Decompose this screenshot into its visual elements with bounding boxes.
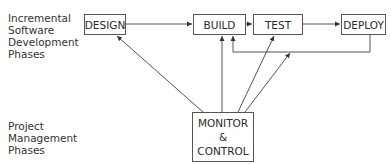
label-line: Development: [8, 36, 79, 48]
build-label: BUILD: [204, 19, 236, 31]
design-label: DESIGN: [85, 19, 125, 31]
label-line: Phases: [8, 48, 79, 60]
label-line: Project: [8, 120, 77, 132]
arrow-monitor-to-test: [238, 36, 274, 112]
deploy-label: DEPLOY: [343, 19, 384, 31]
test-label: TEST: [265, 19, 291, 31]
label-line: Phases: [8, 144, 77, 156]
arrow-deploy-feedback-to-build: [233, 34, 370, 52]
label-line: Management: [8, 132, 77, 144]
monitor-label: MONITOR: [198, 116, 248, 130]
build-box: BUILD: [193, 14, 246, 35]
ampersand-label: &: [219, 130, 227, 144]
project-phases-label: Project Management Phases: [8, 120, 77, 156]
design-box: DESIGN: [84, 14, 126, 35]
label-line: Software: [8, 24, 79, 36]
arrow-monitor-to-design: [117, 36, 203, 112]
software-phases-label: Incremental Software Development Phases: [8, 12, 79, 60]
deploy-box: DEPLOY: [341, 14, 386, 35]
monitor-control-box: MONITOR & CONTROL: [192, 112, 254, 162]
test-box: TEST: [253, 14, 303, 35]
control-label: CONTROL: [197, 144, 248, 158]
label-line: Incremental: [8, 12, 79, 24]
